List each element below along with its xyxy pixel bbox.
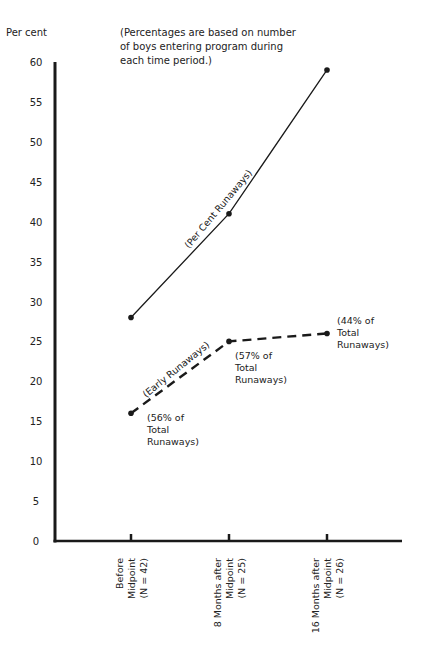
data-point (226, 339, 232, 345)
chart: Per cent (Percentages are based on numbe… (0, 0, 422, 658)
y-tick-label: 0 (33, 536, 39, 547)
data-point (324, 67, 330, 73)
x-category-label: Before (114, 558, 125, 589)
y-axis-label: Per cent (6, 27, 47, 38)
x-category-label: 16 Months after (310, 558, 321, 633)
y-tick-label: 40 (30, 217, 43, 228)
y-tick-label: 30 (30, 297, 43, 308)
annotation-line: Runaways) (235, 374, 287, 385)
y-tick-label: 45 (30, 177, 43, 188)
annotation-line: (57% of (235, 350, 273, 361)
x-category-label: (N = 25) (236, 558, 247, 599)
y-axis-title: Per cent (6, 27, 47, 38)
annotation-line: (44% of (337, 315, 375, 326)
series-early-runaways (128, 331, 330, 416)
data-point (324, 331, 330, 337)
x-category-labels: BeforeMidpoint(N = 42)8 Months afterMidp… (114, 558, 345, 634)
note-line: (Percentages are based on number (120, 27, 297, 38)
data-point (128, 315, 134, 321)
point-annotations: (56% ofTotalRunaways)(57% ofTotalRunaway… (146, 315, 389, 447)
y-tick-label: 20 (30, 376, 43, 387)
note-line: of boys entering program during (120, 41, 283, 52)
x-category-label: Midpoint (224, 558, 235, 599)
series-label-per-cent-runaways: (Per Cent Runaways) (182, 167, 254, 250)
y-tick-label: 25 (30, 336, 43, 347)
y-tick-label: 15 (30, 416, 43, 427)
series-label-early-runaways: (Early Runaways) (140, 339, 211, 400)
y-tick-label: 10 (30, 456, 43, 467)
note-line: each time period.) (120, 55, 212, 66)
x-category-label: 8 Months after (212, 558, 223, 627)
annotation-line: Runaways) (147, 436, 199, 447)
annotation-line: Runaways) (337, 339, 389, 350)
annotation-line: Total (234, 362, 257, 373)
y-tick-label: 50 (30, 137, 43, 148)
data-point (128, 410, 134, 416)
annotation-line: (56% of (147, 412, 185, 423)
x-category-label: (N = 26) (334, 558, 345, 599)
series-line (131, 333, 327, 413)
y-tick-label: 55 (30, 97, 43, 108)
chart-note: (Percentages are based on numberof boys … (120, 27, 297, 66)
x-category-label: Midpoint (126, 558, 137, 599)
data-series: (Per Cent Runaways)(Early Runaways) (128, 67, 330, 416)
y-tick-label: 5 (33, 496, 39, 507)
y-tick-label: 35 (30, 257, 43, 268)
annotation-line: Total (336, 327, 359, 338)
data-point (226, 211, 232, 217)
y-tick-labels: 051015202530354045505560 (30, 57, 43, 547)
annotation-line: Total (146, 424, 169, 435)
axes (54, 62, 403, 543)
y-tick-label: 60 (30, 57, 43, 68)
x-category-label: Midpoint (322, 558, 333, 599)
x-category-label: (N = 42) (138, 558, 149, 599)
